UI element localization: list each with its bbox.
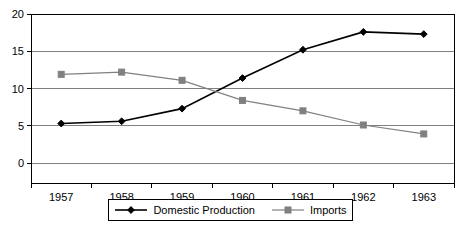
data-point-marker <box>420 31 427 38</box>
x-axis-ticks <box>31 183 454 188</box>
data-point-marker <box>360 122 366 128</box>
data-point-marker <box>360 28 367 35</box>
data-point-marker <box>118 118 125 125</box>
chart-legend: Domestic ProductionImports <box>108 199 353 221</box>
y-axis-tick-label: 0 <box>2 158 24 169</box>
y-axis-tick-label: 10 <box>2 84 24 95</box>
x-axis-tick-label: 1963 <box>401 192 447 203</box>
data-point-marker <box>300 108 306 114</box>
legend-item: Domestic Production <box>114 204 255 216</box>
data-point-marker <box>58 71 64 77</box>
legend-item: Imports <box>271 204 347 216</box>
y-axis-ticks <box>27 14 31 163</box>
y-axis-tick-label: 20 <box>2 9 24 20</box>
data-point-marker <box>179 105 186 112</box>
y-axis-tick-label: 5 <box>2 121 24 132</box>
legend-label: Domestic Production <box>153 204 255 216</box>
gridlines <box>31 14 454 163</box>
data-point-marker <box>300 46 307 53</box>
data-point-marker <box>421 131 427 137</box>
data-point-marker <box>179 77 185 83</box>
data-point-marker <box>239 75 246 82</box>
data-series <box>58 28 427 136</box>
x-axis-tick-label: 1957 <box>38 192 84 203</box>
y-axis-tick-label: 15 <box>2 46 24 57</box>
data-point-marker <box>240 97 246 103</box>
legend-label: Imports <box>310 204 347 216</box>
legend-square-marker-icon <box>271 204 305 216</box>
data-point-marker <box>119 69 125 75</box>
legend-diamond-marker-icon <box>114 204 148 216</box>
line-chart: 05101520 1957195819591960196119621963 Do… <box>0 0 459 225</box>
